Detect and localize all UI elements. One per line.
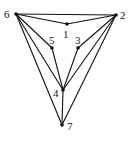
node-label-3: 3 xyxy=(75,34,81,46)
edge-5-4 xyxy=(52,48,63,90)
node-label-7: 7 xyxy=(67,120,73,132)
edge-6-4 xyxy=(16,14,63,90)
edge-6-1 xyxy=(16,14,67,24)
node-5 xyxy=(50,46,54,50)
edge-2-4 xyxy=(63,15,116,90)
edge-2-3 xyxy=(78,15,116,48)
edge-1-2 xyxy=(67,15,116,24)
edge-6-7 xyxy=(16,14,62,125)
node-1 xyxy=(65,22,69,26)
edge-3-4 xyxy=(63,48,78,90)
node-label-1: 1 xyxy=(63,28,69,40)
node-label-4: 4 xyxy=(53,87,59,99)
node-3 xyxy=(76,46,80,50)
node-7 xyxy=(60,123,64,127)
graph-diagram: 1234567 xyxy=(0,0,128,141)
node-label-5: 5 xyxy=(49,34,55,46)
node-6 xyxy=(14,12,18,16)
node-label-2: 2 xyxy=(120,9,126,21)
edge-6-2 xyxy=(16,14,116,15)
node-4 xyxy=(61,88,65,92)
edge-4-7 xyxy=(62,90,63,125)
node-label-6: 6 xyxy=(4,8,10,20)
node-2 xyxy=(114,13,118,17)
